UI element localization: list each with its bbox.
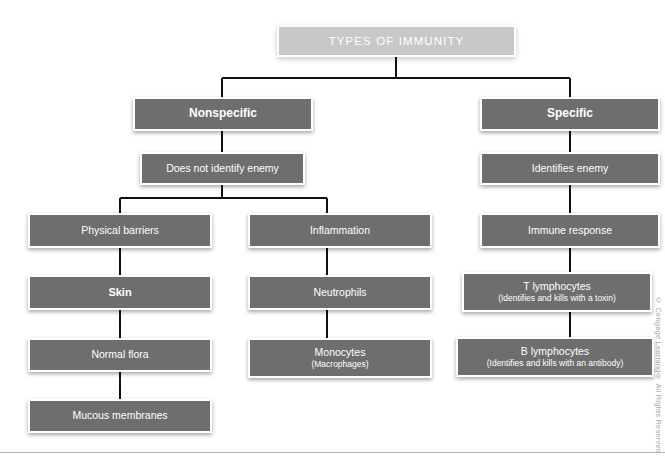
node-physical-barriers[interactable]: Physical barriers (28, 213, 212, 248)
node-label: Immune response (528, 225, 612, 237)
node-neutrophils[interactable]: Neutrophils (248, 275, 432, 310)
node-label: Physical barriers (81, 225, 159, 237)
node-skin[interactable]: Skin (28, 275, 212, 310)
node-label: Identifies enemy (532, 163, 608, 175)
node-label: Monocytes (315, 347, 366, 359)
copyright-credit: © Cengage Learning® All Rights Reserved. (649, 296, 663, 426)
diagram-canvas: TYPES OF IMMUNITY Nonspecific Specific D… (0, 0, 665, 464)
node-label: B lymphocytes (521, 346, 589, 358)
node-monocytes[interactable]: Monocytes (Macrophages) (248, 338, 432, 378)
node-immune-response[interactable]: Immune response (480, 213, 660, 248)
node-t-lymphocytes[interactable]: T lymphocytes (Identifies and kills with… (462, 272, 652, 312)
node-normal-flora[interactable]: Normal flora (28, 338, 212, 372)
node-label: Does not identify enemy (166, 163, 279, 175)
node-mucous-membranes[interactable]: Mucous membranes (28, 399, 212, 433)
node-label: Specific (547, 107, 593, 120)
node-label: Inflammation (310, 225, 370, 237)
node-does-not-identify-enemy[interactable]: Does not identify enemy (140, 152, 305, 185)
node-specific[interactable]: Specific (480, 97, 660, 131)
node-sublabel: (Identifies and kills with a toxin) (498, 294, 616, 304)
node-label: Neutrophils (313, 287, 366, 299)
node-label: Normal flora (91, 349, 148, 361)
node-label: Mucous membranes (72, 410, 167, 422)
node-label: Skin (108, 286, 131, 298)
node-sublabel: (Macrophages) (311, 360, 368, 370)
node-label: T lymphocytes (523, 281, 591, 293)
node-identifies-enemy[interactable]: Identifies enemy (480, 152, 660, 185)
page-bottom-rule (0, 452, 665, 453)
node-sublabel: (Identifies and kills with an antibody) (487, 359, 624, 369)
node-title-types-of-immunity[interactable]: TYPES OF IMMUNITY (277, 25, 516, 57)
node-label: Nonspecific (189, 107, 257, 120)
node-label: TYPES OF IMMUNITY (329, 35, 465, 48)
node-inflammation[interactable]: Inflammation (248, 213, 432, 248)
node-b-lymphocytes[interactable]: B lymphocytes (Identifies and kills with… (456, 337, 654, 377)
node-nonspecific[interactable]: Nonspecific (133, 97, 313, 131)
